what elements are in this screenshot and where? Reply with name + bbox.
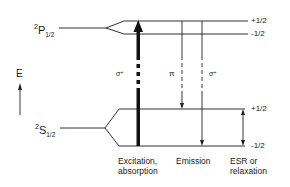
esr-caption: ESR or relaxation [230, 156, 267, 176]
p-minus-half-label: -1/2 [251, 29, 265, 38]
energy-axis-arrow [18, 83, 22, 115]
p-term-label: 2P1/2 [34, 21, 54, 41]
excitation-arrow [134, 20, 144, 146]
esr-arrow [241, 109, 245, 146]
sigma-plus-excitation-label: σ⁺ [116, 69, 124, 78]
s-level [60, 109, 245, 146]
s-minus-half-label: -1/2 [251, 141, 265, 150]
p-level [59, 21, 248, 34]
energy-axis-label: E [16, 68, 23, 80]
s-plus-half-label: +1/2 [251, 104, 267, 113]
excitation-caption: Excitation, absorption [118, 156, 158, 176]
emission-caption: Emission [176, 156, 210, 166]
sigma-plus-emission-label: σ⁺ [209, 69, 217, 78]
sigma-emission-arrow [200, 21, 204, 146]
s-term-label: 2S1/2 [35, 121, 55, 141]
p-plus-half-label: +1/2 [251, 16, 267, 25]
pi-label: π [169, 69, 175, 78]
